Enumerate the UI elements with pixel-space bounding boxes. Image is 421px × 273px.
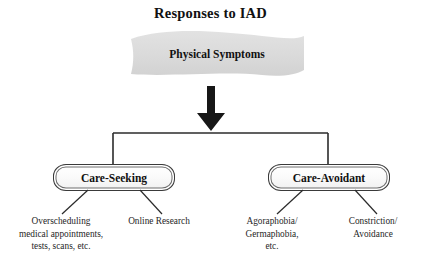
node-care-avoidant[interactable]: Care-Avoidant — [268, 164, 390, 191]
banner-label: Physical Symptoms — [128, 48, 306, 60]
leaf-item: Constriction/ Avoidance — [330, 215, 416, 240]
leaf-item: Agoraphobia/ Germaphobia, etc. — [228, 215, 316, 253]
leaf-line: tests, scans, etc. — [8, 240, 114, 253]
node-care-seeking-label: Care-Seeking — [81, 172, 147, 184]
leaf-line: Online Research — [113, 215, 205, 228]
leaf-line: Overscheduling — [8, 215, 114, 228]
leaf-line: Constriction/ — [330, 215, 416, 228]
leaf-line: Germaphobia, — [228, 228, 316, 241]
leaf-line: medical appointments, — [8, 228, 114, 241]
leaf-item: Online Research — [113, 215, 205, 228]
page-title: Responses to IAD — [0, 5, 421, 22]
node-care-avoidant-label: Care-Avoidant — [293, 172, 365, 184]
leaf-line: Agoraphobia/ — [228, 215, 316, 228]
leaf-line: Avoidance — [330, 228, 416, 241]
leaf-line: etc. — [228, 240, 316, 253]
physical-symptoms-banner: Physical Symptoms — [128, 30, 306, 82]
leaf-item: Overscheduling medical appointments, tes… — [8, 215, 114, 253]
diagram-canvas: Responses to IAD Physical Symptoms — [0, 0, 421, 273]
node-care-seeking[interactable]: Care-Seeking — [53, 164, 175, 191]
